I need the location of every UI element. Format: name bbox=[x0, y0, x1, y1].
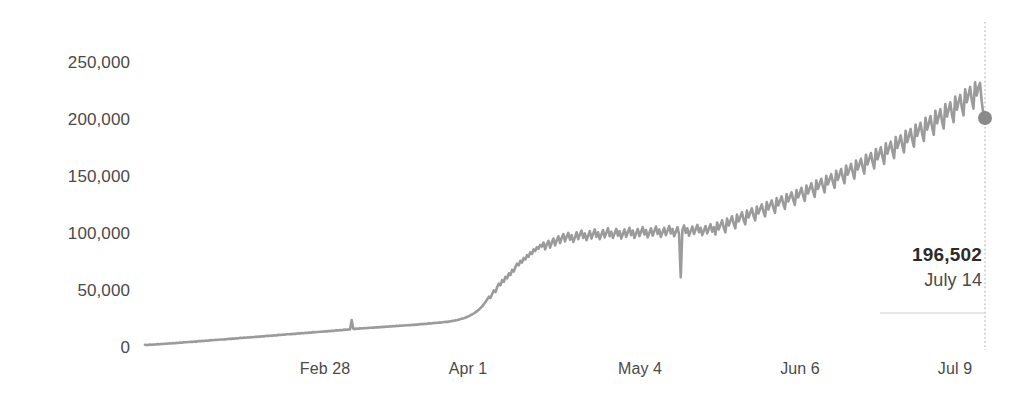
x-tick-label: Apr 1 bbox=[449, 360, 488, 378]
line-chart: 250,000200,000150,000100,00050,0000 Feb … bbox=[0, 0, 1034, 409]
tooltip-value-label: 196,502 bbox=[878, 243, 982, 267]
value-tooltip: 196,502 July 14 bbox=[878, 243, 984, 293]
x-tick-label: Jul 9 bbox=[938, 360, 972, 378]
x-tick-label: Feb 28 bbox=[300, 360, 350, 378]
x-axis: Feb 28Apr 1May 4Jun 6Jul 9 bbox=[0, 0, 1034, 409]
x-tick-label: Jun 6 bbox=[780, 360, 820, 378]
x-tick-label: May 4 bbox=[618, 360, 662, 378]
tooltip-date-label: July 14 bbox=[878, 267, 982, 293]
